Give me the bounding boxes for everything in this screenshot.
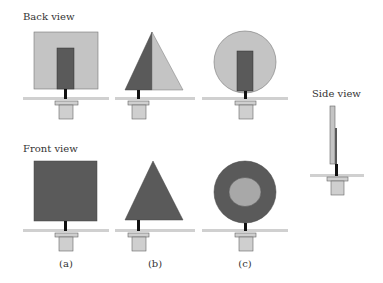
front-square-sign xyxy=(34,161,97,251)
ground-line xyxy=(115,97,195,100)
side-view-sign xyxy=(310,106,364,195)
back-triangle-sign xyxy=(125,32,183,119)
caption-b: (b) xyxy=(148,258,162,269)
front-triangle-sign xyxy=(125,161,183,251)
ground-line xyxy=(115,229,195,232)
front-circle-sign xyxy=(214,161,276,251)
side-view-label: Side view xyxy=(312,88,361,99)
caption-a: (a) xyxy=(59,258,73,269)
back-circle-sign xyxy=(214,31,276,119)
back-view-label: Back view xyxy=(23,11,75,22)
back-square-sign xyxy=(34,32,98,119)
caption-c: (c) xyxy=(238,258,252,269)
diagram-canvas: Back view Front view Side view xyxy=(0,0,383,283)
front-view-label: Front view xyxy=(23,143,78,154)
